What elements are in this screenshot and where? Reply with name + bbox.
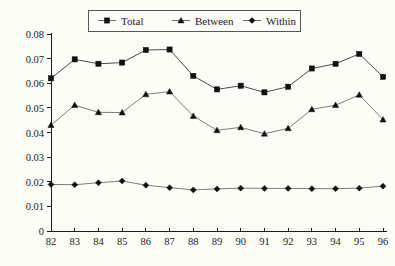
- data-point-total-94: [333, 61, 338, 66]
- data-point-within-86: [143, 182, 149, 188]
- data-point-between-94: [332, 102, 338, 108]
- data-point-total-84: [96, 61, 101, 66]
- data-point-total-95: [357, 51, 362, 56]
- data-point-total-87: [167, 47, 172, 52]
- data-point-total-85: [120, 60, 125, 65]
- x-tick-label: 93: [307, 236, 318, 247]
- y-tick-label: 0.05: [26, 103, 44, 114]
- legend-marker-within: [249, 18, 255, 24]
- data-point-within-95: [356, 185, 362, 191]
- x-tick-label: 94: [330, 236, 341, 247]
- x-tick-label: 86: [141, 236, 152, 247]
- y-axis-ticks: 0.080.070.060.050.040.030.020.010: [26, 29, 51, 237]
- data-point-total-92: [286, 84, 291, 89]
- data-point-total-88: [191, 73, 196, 78]
- x-tick-label: 83: [69, 236, 80, 247]
- data-point-between-83: [72, 102, 78, 108]
- data-point-within-83: [72, 182, 78, 188]
- x-tick-label: 88: [188, 236, 199, 247]
- data-point-within-92: [285, 185, 291, 191]
- data-point-within-82: [48, 181, 54, 187]
- x-tick-label: 91: [259, 236, 270, 247]
- data-point-total-93: [309, 66, 314, 71]
- data-point-total-96: [380, 74, 385, 79]
- y-tick-label: 0.02: [26, 177, 44, 188]
- data-point-total-91: [262, 90, 267, 95]
- x-tick-label: 96: [378, 236, 389, 247]
- y-tick-label: 0.08: [26, 29, 44, 40]
- y-tick-label: 0.07: [26, 54, 44, 65]
- legend-label-between: Between: [195, 15, 234, 27]
- data-point-between-90: [238, 124, 244, 129]
- x-tick-label: 82: [46, 236, 57, 247]
- chart-legend: TotalBetweenWithin: [88, 10, 300, 31]
- data-point-total-82: [48, 76, 53, 81]
- data-point-within-85: [119, 178, 125, 184]
- y-tick-label: 0.04: [26, 128, 45, 139]
- data-point-within-84: [95, 180, 101, 186]
- legend-marker-total: [104, 18, 109, 23]
- data-point-within-96: [380, 183, 386, 189]
- x-tick-label: 90: [235, 236, 246, 247]
- series-within: [48, 178, 386, 193]
- x-tick-label: 85: [117, 236, 128, 247]
- data-point-within-91: [261, 185, 267, 191]
- legend-label-total: Total: [121, 15, 143, 27]
- data-point-within-87: [167, 185, 173, 191]
- data-point-within-94: [333, 186, 339, 192]
- data-point-between-87: [166, 89, 172, 95]
- data-point-within-88: [190, 187, 196, 193]
- data-point-within-93: [309, 186, 315, 192]
- y-tick-label: 0.03: [26, 152, 44, 163]
- x-tick-label: 84: [93, 236, 104, 247]
- x-tick-label: 87: [164, 236, 175, 247]
- data-point-total-83: [72, 57, 77, 62]
- x-tick-label: 89: [212, 236, 223, 247]
- legend-label-within: Within: [266, 15, 297, 27]
- x-tick-label: 92: [283, 236, 294, 247]
- line-chart: 0.080.070.060.050.040.030.020.0108283848…: [0, 0, 395, 266]
- series-total: [48, 47, 385, 95]
- data-point-total-89: [214, 87, 219, 92]
- series-between: [48, 89, 386, 137]
- series-line-total: [51, 50, 383, 93]
- chart-container: 0.080.070.060.050.040.030.020.0108283848…: [0, 0, 395, 266]
- data-point-between-95: [356, 92, 362, 98]
- data-point-within-90: [238, 185, 244, 191]
- x-tick-label: 95: [354, 236, 365, 247]
- data-point-total-86: [143, 47, 148, 52]
- data-point-total-90: [238, 83, 243, 88]
- data-point-within-89: [214, 186, 220, 192]
- y-tick-label: 0: [39, 226, 44, 237]
- y-tick-label: 0.06: [26, 78, 44, 89]
- x-axis-ticks: 828384858687888990919293949596: [46, 228, 389, 248]
- y-tick-label: 0.01: [26, 201, 44, 212]
